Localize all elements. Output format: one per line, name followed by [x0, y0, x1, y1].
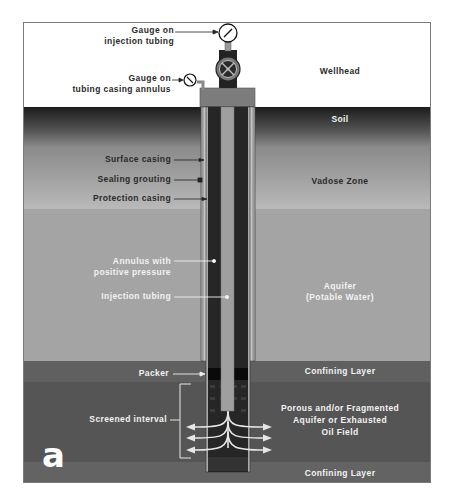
gauge-injection-label: Gauge on injection tubing: [104, 25, 174, 47]
panel-letter: a: [42, 438, 65, 472]
confining-lower-label: Confining Layer: [290, 468, 390, 479]
gauge-annulus-label: Gauge on tubing casing annulus: [72, 73, 171, 95]
injection-gauge-icon: [219, 24, 237, 42]
porous-zone-label: Porous and/or Fragmented Aquifer or Exha…: [265, 402, 415, 438]
soil-zone-label: Soil: [300, 114, 380, 125]
packer-label: Packer: [139, 368, 169, 379]
screened-interval-bracket: [180, 384, 191, 458]
screened-interval-label: Screened interval: [89, 414, 167, 425]
injection-tubing-label: Injection tubing: [101, 291, 171, 302]
surface-casing-label: Surface casing: [105, 154, 171, 165]
protection-casing-label: Protection casing: [93, 193, 171, 204]
wellhead-base: [200, 88, 255, 107]
aquifer-zone-label: Aquifer (Potable Water): [290, 281, 390, 303]
sealing-grouting-label: Sealing grouting: [98, 174, 171, 185]
wellhead-zone-label: Wellhead: [300, 66, 380, 77]
vadose-zone-label: Vadose Zone: [300, 176, 380, 187]
valve-wheel-icon: [216, 57, 240, 81]
annulus-label: Annulus with positive pressure: [94, 256, 171, 278]
injection-tubing: [221, 107, 234, 411]
annulus-gauge-icon: [184, 74, 196, 86]
confining-upper-label: Confining Layer: [290, 366, 390, 377]
